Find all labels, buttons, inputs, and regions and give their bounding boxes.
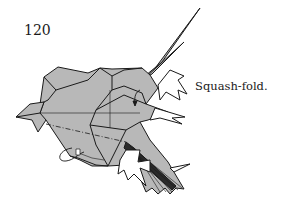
push-arrow-middle [150,108,185,124]
instruction-text: Squash-fold. [195,81,268,93]
origami-diagram-page: 120 [0,0,287,209]
push-arrow-lower-right [170,164,190,172]
push-arrow-upper [158,70,187,100]
origami-model-illustration [0,0,287,209]
upper-spike [140,8,200,80]
